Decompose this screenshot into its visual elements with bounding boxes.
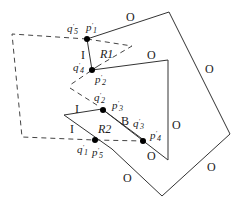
point-p4 — [140, 138, 146, 144]
label-q1: q'1 — [77, 143, 88, 157]
point-p1 — [84, 36, 90, 42]
edge-label-o-outer-top: O — [126, 10, 135, 24]
label-p1: p'1 — [85, 21, 97, 35]
label-p4: p'4 — [149, 129, 161, 143]
edge-label-o-outer-right: O — [205, 62, 214, 76]
edge-label-i-r1: I — [81, 48, 85, 62]
polygon-diagram: q'5 p'1 q'4 p'2 q'2 p'3 q'3 p'4 q'1 p'5 … — [0, 0, 238, 208]
point-p3 — [100, 107, 106, 113]
label-q3: q'3 — [133, 117, 144, 131]
edge-label-i-upper: I — [75, 102, 79, 116]
edge-label-o-inner-bottom: O — [147, 149, 156, 163]
point-p5 — [92, 137, 98, 143]
edge-p1-p2 — [87, 39, 92, 70]
edge-label-o-inner-right: O — [172, 118, 181, 132]
label-q2: q'2 — [94, 91, 105, 105]
label-p5: p'5 — [91, 146, 103, 160]
label-q5: q'5 — [67, 22, 78, 36]
region-label-r2: R2 — [97, 122, 111, 136]
edge-label-i-lower: I — [70, 122, 74, 136]
label-p3: p'3 — [111, 99, 123, 113]
region-label-r1: R1 — [99, 47, 113, 61]
edge-label-b: B — [121, 114, 129, 128]
edge-label-o-outer-lower-right: O — [207, 160, 216, 174]
edge-label-o-outer-bottom-left: O — [123, 171, 132, 185]
edge-label-o-inner-top: O — [147, 48, 156, 62]
label-p2: p'2 — [94, 73, 106, 87]
label-q4: q'4 — [73, 61, 84, 75]
